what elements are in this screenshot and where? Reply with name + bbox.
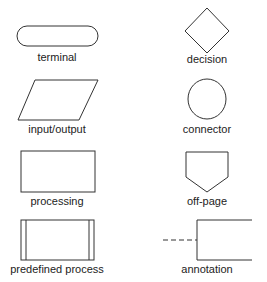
processing-shape <box>21 151 95 192</box>
processing-label: processing <box>0 195 117 207</box>
connector-label: connector <box>147 123 267 135</box>
connector-shape <box>188 79 226 119</box>
decision-shape <box>185 8 229 53</box>
decision-label: decision <box>147 53 267 65</box>
off-page-shape <box>186 152 228 192</box>
terminal-shape <box>17 26 98 46</box>
annotation-shape <box>197 220 252 260</box>
annotation-label: annotation <box>147 263 267 275</box>
input-output-shape <box>18 80 98 120</box>
terminal-label: terminal <box>0 51 117 63</box>
flowchart-symbols-canvas <box>0 0 267 282</box>
predefined-process-label: predefined process <box>0 263 117 275</box>
off-page-label: off-page <box>147 195 267 207</box>
input-output-label: input/output <box>0 123 117 135</box>
predefined-process-shape <box>21 220 94 260</box>
